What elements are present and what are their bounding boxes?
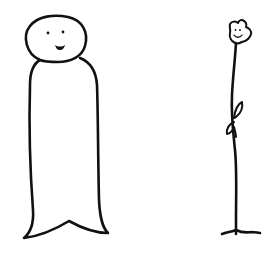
flower-leaf-upper bbox=[234, 102, 242, 118]
flower-stem bbox=[232, 43, 237, 234]
flower-figure bbox=[222, 20, 260, 234]
person-left-eye bbox=[47, 32, 50, 35]
person-figure bbox=[24, 16, 108, 238]
person-head bbox=[26, 16, 86, 62]
person-mouth bbox=[55, 45, 65, 50]
flower-left-eye bbox=[235, 29, 237, 31]
person-body bbox=[24, 58, 108, 238]
flower-mouth bbox=[234, 35, 242, 37]
flower-head bbox=[230, 20, 251, 43]
person-right-eye bbox=[62, 31, 65, 34]
flower-ground bbox=[222, 230, 260, 234]
doodle-canvas bbox=[0, 0, 271, 259]
flower-right-eye bbox=[239, 29, 241, 31]
